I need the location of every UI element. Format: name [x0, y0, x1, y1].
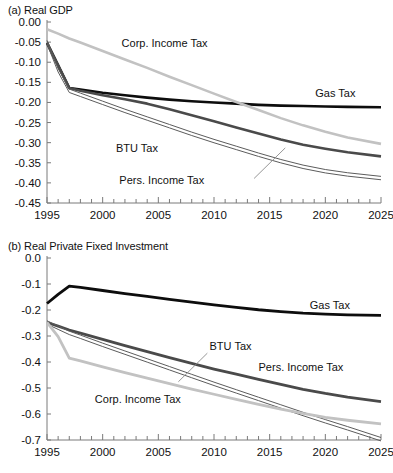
y-tick-label: 0.00	[19, 16, 41, 28]
y-tick-label: -0.5	[21, 382, 41, 394]
series-line-upper	[47, 40, 381, 176]
y-tick-label: -0.35	[15, 157, 41, 169]
y-tick-label: -0.15	[15, 76, 41, 88]
y-tick-label: -0.45	[15, 197, 41, 209]
x-tick-label: 2025	[368, 446, 393, 458]
x-tick-label: 2005	[146, 209, 172, 221]
y-tick-label: -0.10	[15, 56, 41, 68]
x-tick-label: 2020	[313, 446, 339, 458]
y-tick-label: -0.05	[15, 36, 41, 48]
x-tick-label: 1995	[34, 209, 60, 221]
x-tick-label: 2025	[368, 209, 393, 221]
figure-container: (a) Real GDP 0.00-0.05-0.10-0.15-0.20-0.…	[0, 0, 393, 473]
series-label-gas-tax: Gas Tax	[310, 299, 351, 311]
series-label-btu-tax: BTU Tax	[210, 340, 252, 352]
series-label-pers-income-tax: Pers. Income Tax	[119, 174, 204, 186]
series-label-gas-tax: Gas Tax	[315, 87, 356, 99]
y-tick-label: -0.1	[21, 278, 41, 290]
y-tick-label: -0.40	[15, 177, 41, 189]
series-label-pers-income-tax: Pers. Income Tax	[259, 361, 344, 373]
x-tick-label: 2010	[201, 209, 227, 221]
y-tick-label: 0.0	[25, 252, 41, 264]
chart-panel-b: (b) Real Private Fixed Investment 0.0-0.…	[0, 236, 393, 473]
series-label-corp-income-tax: Corp. Income Tax	[95, 393, 182, 405]
y-tick-label: -0.25	[15, 117, 41, 129]
y-tick-label: -0.7	[21, 434, 41, 446]
series-line-lower	[47, 44, 381, 180]
chart-panel-a: (a) Real GDP 0.00-0.05-0.10-0.15-0.20-0.…	[0, 0, 393, 236]
series-pers-income-tax	[47, 40, 381, 179]
x-tick-label: 2010	[201, 446, 227, 458]
series-label-btu-tax: BTU Tax	[116, 142, 158, 154]
series-label-corp-income-tax: Corp. Income Tax	[122, 37, 209, 49]
x-tick-label: 2005	[146, 446, 172, 458]
y-tick-label: -0.3	[21, 330, 41, 342]
y-tick-label: -0.6	[21, 408, 41, 420]
x-tick-label: 2015	[257, 446, 283, 458]
y-tick-label: -0.30	[15, 137, 41, 149]
x-tick-label: 2015	[257, 209, 283, 221]
y-tick-label: -0.2	[21, 304, 41, 316]
x-tick-label: 2000	[90, 446, 116, 458]
y-tick-label: -0.20	[15, 96, 41, 108]
x-tick-label: 1995	[34, 446, 60, 458]
x-tick-label: 2020	[313, 209, 339, 221]
y-tick-label: -0.4	[21, 356, 41, 368]
x-tick-label: 2000	[90, 209, 116, 221]
panel-b-plot: 0.0-0.1-0.2-0.3-0.4-0.5-0.6-0.7199520002…	[0, 236, 393, 473]
panel-a-plot: 0.00-0.05-0.10-0.15-0.20-0.25-0.30-0.35-…	[0, 0, 393, 236]
axis-frame	[47, 20, 381, 203]
